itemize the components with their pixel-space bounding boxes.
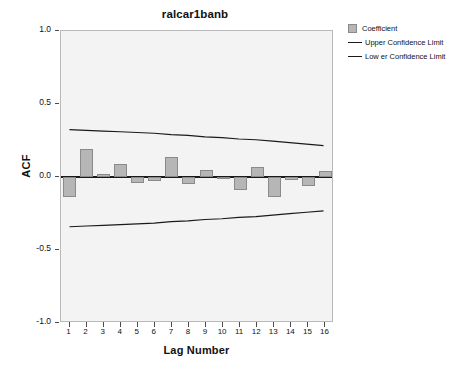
y-axis-label: ACF xyxy=(20,136,32,196)
chart-legend: CoefficientUpper Confidence LimitLow er … xyxy=(348,22,466,64)
legend-item: Low er Confidence Limit xyxy=(348,50,466,62)
y-tick-label: 0.5 xyxy=(17,98,51,107)
bar-lag-1 xyxy=(63,177,76,197)
x-axis-label: Lag Number xyxy=(60,344,333,356)
x-tick-label: 16 xyxy=(314,327,334,336)
legend-item: Coefficient xyxy=(348,22,466,34)
bar-lag-15 xyxy=(302,177,315,186)
y-tick-label: -1.0 xyxy=(17,317,51,326)
bar-lag-12 xyxy=(251,167,264,177)
legend-line-swatch-icon xyxy=(348,42,362,43)
y-tick-mark xyxy=(55,322,59,323)
legend-item: Upper Confidence Limit xyxy=(348,36,466,48)
legend-line-swatch-icon xyxy=(348,56,362,57)
acf-chart: ralcar1banb ACF 1.00.50.0-0.5-1.0 123456… xyxy=(0,0,467,376)
bar-lag-3 xyxy=(97,174,110,177)
lower-confidence-limit-line xyxy=(69,211,323,227)
bar-lag-16 xyxy=(319,171,332,177)
y-tick-mark xyxy=(55,176,59,177)
y-tick-mark xyxy=(55,249,59,250)
legend-label: Coefficient xyxy=(362,24,397,33)
y-tick-mark xyxy=(55,103,59,104)
plot-inner xyxy=(61,31,332,321)
y-tick-mark xyxy=(55,30,59,31)
bar-lag-11 xyxy=(234,177,247,190)
legend-square-swatch-icon xyxy=(348,24,357,33)
y-tick-label: -0.5 xyxy=(17,244,51,253)
upper-confidence-limit-line xyxy=(69,130,323,146)
y-axis: ACF 1.00.50.0-0.5-1.0 xyxy=(0,0,60,376)
bar-lag-2 xyxy=(80,149,93,177)
bar-lag-5 xyxy=(131,177,144,183)
y-tick-label: 1.0 xyxy=(17,25,51,34)
bar-lag-9 xyxy=(200,170,213,177)
bar-lag-14 xyxy=(285,177,298,180)
bar-lag-6 xyxy=(148,177,161,181)
y-tick-label: 0.0 xyxy=(17,171,51,180)
legend-label: Upper Confidence Limit xyxy=(365,38,443,47)
bar-lag-4 xyxy=(114,164,127,177)
legend-label: Low er Confidence Limit xyxy=(365,52,445,61)
bar-lag-13 xyxy=(268,177,281,197)
bar-lag-7 xyxy=(165,157,178,177)
bar-lag-10 xyxy=(217,177,230,179)
bar-lag-8 xyxy=(182,177,195,184)
plot-area xyxy=(60,30,333,322)
